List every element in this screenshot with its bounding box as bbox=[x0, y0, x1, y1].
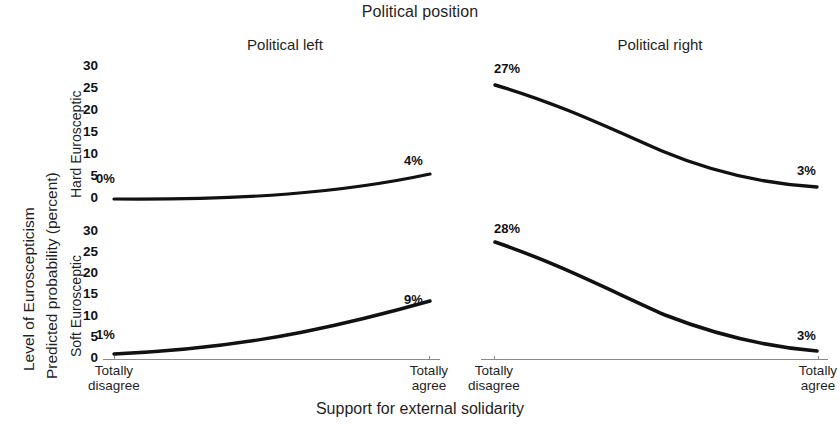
y-tick: 25 bbox=[83, 81, 98, 95]
x-tick-right-end bbox=[818, 356, 819, 360]
x-axis-title: Support for external solidarity bbox=[0, 400, 840, 418]
x-category-line1: Totally bbox=[439, 363, 549, 378]
row-label-hard-eurosceptic: Hard Eurosceptic bbox=[68, 91, 84, 198]
x-category-line1: Totally bbox=[59, 363, 169, 378]
x-category-line1: Totally bbox=[763, 363, 840, 378]
data-label-start-soft-right: 28% bbox=[494, 221, 520, 236]
y-tick: 30 bbox=[83, 59, 98, 73]
series-line-hard-right bbox=[487, 60, 827, 205]
y-tick: 15 bbox=[83, 287, 98, 301]
figure-title: Political position bbox=[0, 3, 840, 21]
plot-panel-hard-political-right bbox=[487, 60, 827, 205]
x-category-line2: agree bbox=[763, 378, 840, 393]
x-axis-line-right bbox=[481, 359, 828, 360]
x-tick-left-end bbox=[429, 356, 430, 360]
panel-title-political-left: Political left bbox=[185, 36, 385, 53]
data-label-end-soft-right: 3% bbox=[797, 328, 816, 343]
y-tick: 30 bbox=[83, 224, 98, 238]
x-tick-right-start bbox=[494, 356, 495, 360]
data-label-start-hard-right: 27% bbox=[494, 61, 520, 76]
x-category-right-panel-end: Totally agree bbox=[763, 363, 840, 393]
y-tick: 0 bbox=[90, 191, 98, 205]
row-label-soft-eurosceptic: Soft Eurosceptic bbox=[68, 255, 84, 357]
series-line-soft-right bbox=[487, 225, 827, 359]
data-label-end-soft-left: 9% bbox=[404, 292, 423, 307]
panel-title-political-right: Political right bbox=[560, 36, 760, 53]
plot-panel-soft-political-left bbox=[108, 225, 438, 359]
y-tick: 15 bbox=[83, 125, 98, 139]
series-line-soft-left bbox=[108, 225, 438, 359]
data-label-start-hard-left: 0% bbox=[96, 171, 115, 186]
x-axis-line-left bbox=[103, 359, 440, 360]
plot-panel-soft-political-right bbox=[487, 225, 827, 359]
y-axis-title-outer: Level of Euroscepticism bbox=[20, 207, 38, 371]
data-label-end-hard-left: 4% bbox=[404, 153, 423, 168]
x-category-line2: disagree bbox=[439, 378, 549, 393]
x-tick-left-start bbox=[114, 356, 115, 360]
data-label-start-soft-left: 1% bbox=[96, 327, 115, 342]
series-line-hard-left bbox=[108, 60, 438, 205]
y-tick: 25 bbox=[83, 245, 98, 259]
x-category-right-panel-start: Totally disagree bbox=[439, 363, 549, 393]
plot-panel-hard-political-left bbox=[108, 60, 438, 205]
y-axis-title-inner: Predicted probability (percent) bbox=[43, 172, 61, 379]
y-tick: 20 bbox=[83, 266, 98, 280]
y-tick: 20 bbox=[83, 103, 98, 117]
x-category-left-panel-start: Totally disagree bbox=[59, 363, 169, 393]
data-label-end-hard-right: 3% bbox=[797, 163, 816, 178]
x-category-line2: disagree bbox=[59, 378, 169, 393]
y-tick: 10 bbox=[83, 147, 98, 161]
y-tick: 10 bbox=[83, 309, 98, 323]
